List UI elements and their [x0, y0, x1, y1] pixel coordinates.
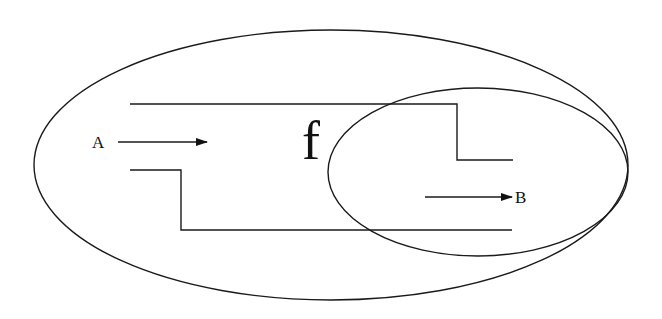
label-output-b: B	[515, 188, 526, 207]
channel-lower-wall	[130, 170, 512, 230]
inner-ellipse	[328, 88, 628, 256]
outer-ellipse	[34, 30, 628, 300]
label-function-f: f	[302, 111, 320, 171]
label-input-a: A	[92, 133, 105, 152]
diagram-canvas: A B f	[0, 0, 662, 319]
channel-upper-wall	[130, 104, 513, 160]
